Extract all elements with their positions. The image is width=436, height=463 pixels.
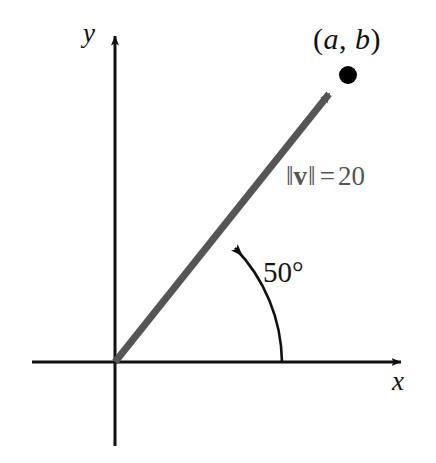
norm-bar-close: ‖: [308, 161, 315, 191]
y-axis-label: y: [83, 20, 95, 47]
point-label-comma: ,: [339, 22, 347, 55]
point-label-a: a: [324, 22, 340, 55]
vector-diagram-figure: y x (a, b) ‖v‖=20 50°: [0, 0, 436, 463]
point-label-b: b: [355, 22, 371, 55]
vector-symbol: v: [293, 161, 309, 191]
magnitude-value: 20: [338, 161, 365, 191]
diagram-canvas: [0, 0, 436, 463]
norm-bar-open: ‖: [286, 161, 293, 191]
terminal-point-dot: [339, 66, 357, 84]
point-label-close-paren: ): [371, 22, 382, 55]
equals-sign: =: [315, 161, 338, 191]
point-label-open-paren: (: [313, 22, 324, 55]
angle-label: 50°: [263, 258, 304, 287]
x-axis-label: x: [392, 368, 404, 395]
terminal-point-label: (a, b): [313, 24, 381, 54]
vector-magnitude-label: ‖v‖=20: [286, 163, 365, 190]
vector-v: [115, 94, 329, 362]
